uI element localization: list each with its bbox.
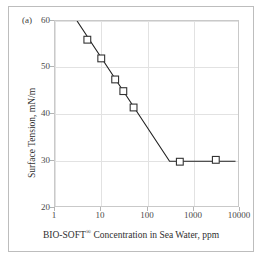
y-tick-label-50: 50: [28, 62, 50, 71]
figure-panel: (a) Surface Tension, mN/m 60 50 40 30 20…: [0, 0, 262, 260]
data-point-marker: [212, 156, 219, 163]
plot-area: [54, 20, 239, 207]
x-tick-label-10: 10: [96, 211, 105, 220]
x-tick-label-group: 1 10 100 1000 10000: [54, 211, 239, 223]
y-tick-label-60: 60: [28, 16, 50, 25]
data-point-marker: [112, 76, 119, 83]
fit-line: [77, 21, 235, 161]
data-point-marker: [98, 55, 105, 62]
x-tick-label-1000: 1000: [184, 211, 202, 220]
x-tick-label-10000: 10000: [228, 211, 251, 220]
data-point-marker: [120, 88, 127, 95]
x-axis-title-suffix: Concentration in Sea Water, ppm: [91, 230, 219, 240]
y-tick-label-40: 40: [28, 109, 50, 118]
x-axis-title: BIO-SOFT® Concentration in Sea Water, pp…: [8, 230, 254, 240]
x-axis-title-prefix: BIO-SOFT: [43, 230, 86, 240]
y-tick-label-30: 30: [28, 156, 50, 165]
data-point-marker: [84, 36, 91, 43]
data-series-svg: [55, 21, 239, 207]
y-tick-label-20: 20: [28, 203, 50, 212]
fit-line-path: [77, 21, 235, 161]
data-point-marker: [176, 158, 183, 165]
x-tick-label-1: 1: [52, 211, 57, 220]
y-tick-label-group: 60 50 40 30 20: [26, 20, 50, 207]
data-point-markers: [84, 36, 219, 165]
data-point-marker: [130, 104, 137, 111]
x-tick-label-100: 100: [140, 211, 154, 220]
